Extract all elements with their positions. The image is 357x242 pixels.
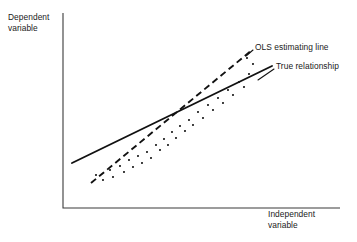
data-point — [146, 151, 148, 153]
data-point — [155, 144, 157, 146]
data-point — [132, 166, 134, 168]
data-point — [207, 104, 209, 106]
data-point — [246, 57, 248, 59]
data-point — [175, 137, 177, 139]
data-point — [123, 171, 125, 173]
true-relationship-line — [72, 66, 272, 163]
scatter-points-group — [95, 57, 254, 181]
y-axis-label: Dependent variable — [8, 12, 49, 33]
data-point — [95, 174, 97, 176]
data-point — [227, 89, 229, 91]
data-point — [112, 176, 114, 178]
data-point — [179, 125, 181, 127]
data-point — [184, 130, 186, 132]
regression-figure: Dependent variable Independent variable … — [0, 0, 357, 242]
data-point — [212, 109, 214, 111]
data-point — [197, 111, 199, 113]
data-point — [248, 73, 250, 75]
data-point — [159, 149, 161, 151]
plot-canvas — [0, 0, 357, 242]
data-point — [102, 179, 104, 181]
data-point — [137, 155, 139, 157]
data-point — [109, 169, 111, 171]
data-point — [232, 94, 234, 96]
data-point — [217, 97, 219, 99]
data-point — [150, 157, 152, 159]
x-axis-label: Independent variable — [268, 209, 315, 230]
data-point — [202, 117, 204, 119]
annotation-ols-estimating-line: OLS estimating line — [255, 42, 329, 52]
ols-estimating-line — [91, 50, 252, 183]
annotation-leader-lines — [246, 50, 274, 80]
data-point — [119, 165, 121, 167]
data-point — [222, 102, 224, 104]
data-point — [163, 138, 165, 140]
data-point — [188, 119, 190, 121]
data-point — [141, 162, 143, 164]
annotation-true-relationship: True relationship — [276, 61, 339, 71]
data-point — [252, 63, 254, 65]
data-point — [171, 131, 173, 133]
data-point — [192, 124, 194, 126]
data-point — [243, 86, 245, 88]
data-point — [128, 159, 130, 161]
data-point — [167, 144, 169, 146]
